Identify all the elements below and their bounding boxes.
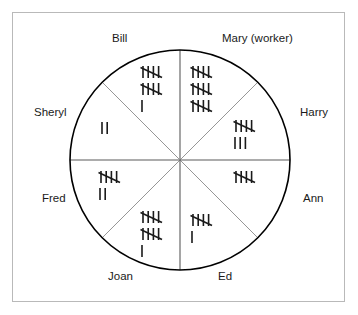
tally-singles (98, 186, 110, 203)
tally-single-marks-icon (190, 229, 197, 246)
tally-single-marks-icon (140, 243, 147, 260)
tally-singles (140, 243, 147, 260)
tally-group (98, 169, 128, 186)
tally-row (190, 64, 220, 81)
tally-row (140, 98, 170, 115)
tally-block-sheryl (100, 120, 112, 137)
tally-group-of-five-icon (190, 98, 220, 115)
tally-single-marks-icon (100, 120, 112, 137)
tally-block-ann (233, 169, 263, 186)
tally-row (140, 64, 170, 81)
sector-label-bill: Bill (112, 32, 127, 45)
tally-group (190, 98, 220, 115)
tally-row (190, 98, 220, 115)
tally-group-of-five-icon (233, 118, 263, 135)
tally-group (140, 81, 170, 98)
tally-group-of-five-icon (140, 81, 170, 98)
tally-singles (190, 229, 197, 246)
tally-block-ed (190, 212, 220, 246)
tally-group (140, 226, 170, 243)
sector-label-sheryl: Sheryl (34, 106, 67, 119)
tally-row (233, 118, 263, 135)
tally-block-joan (140, 209, 170, 260)
pie-circle-diagram (0, 0, 358, 315)
tally-group-of-five-icon (140, 209, 170, 226)
sector-label-fred: Fred (42, 192, 66, 205)
sector-label-mary-worker: Mary (worker) (222, 32, 293, 45)
tally-row (100, 120, 112, 137)
tally-group (140, 64, 170, 81)
tally-block-fred (98, 169, 128, 203)
sector-label-harry: Harry (300, 106, 328, 119)
tally-row (140, 243, 170, 260)
tally-single-marks-icon (233, 135, 251, 152)
tally-group (233, 118, 263, 135)
sector-label-joan: Joan (108, 270, 133, 283)
tally-block-bill (140, 64, 170, 115)
tally-row (233, 169, 263, 186)
tally-row (190, 212, 220, 229)
tally-singles (233, 135, 251, 152)
tally-group (190, 81, 220, 98)
tally-pie-figure: BillMary (worker)HarryAnnEdJoanFredShery… (0, 0, 358, 315)
tally-group-of-five-icon (98, 169, 128, 186)
sector-label-ann: Ann (303, 192, 323, 205)
tally-single-marks-icon (98, 186, 110, 203)
tally-row (140, 209, 170, 226)
sector-divider-lines (70, 50, 290, 270)
tally-row (140, 226, 170, 243)
tally-group-of-five-icon (190, 212, 220, 229)
tally-group (140, 209, 170, 226)
tally-group-of-five-icon (140, 226, 170, 243)
tally-row (190, 229, 220, 246)
tally-block-mary-worker (190, 64, 220, 115)
tally-row (140, 81, 170, 98)
sector-label-ed: Ed (218, 270, 232, 283)
tally-block-harry (233, 118, 263, 152)
tally-group-of-five-icon (233, 169, 263, 186)
tally-row (98, 186, 128, 203)
tally-group-of-five-icon (190, 64, 220, 81)
tally-group-of-five-icon (190, 81, 220, 98)
tally-singles (140, 98, 147, 115)
tally-group (190, 212, 220, 229)
tally-singles (100, 120, 112, 137)
tally-row (98, 169, 128, 186)
tally-group (233, 169, 263, 186)
tally-group (190, 64, 220, 81)
tally-single-marks-icon (140, 98, 147, 115)
tally-row (233, 135, 263, 152)
tally-row (190, 81, 220, 98)
tally-group-of-five-icon (140, 64, 170, 81)
